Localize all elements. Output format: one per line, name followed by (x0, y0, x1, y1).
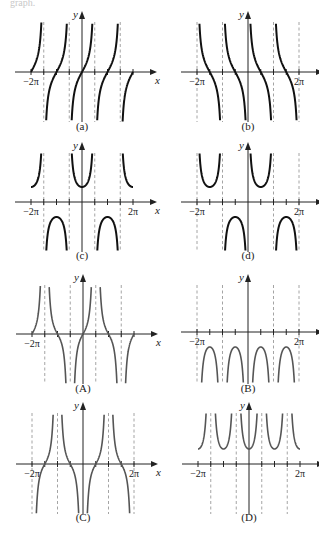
graph-caption: (B) (241, 382, 256, 395)
y-axis-arrow-icon (80, 274, 86, 282)
y-axis-arrow-icon (245, 142, 251, 150)
curve-segment (49, 287, 66, 383)
curve-segment (46, 217, 66, 251)
x-tick-label: −2π (24, 468, 40, 479)
graph-caption: (d) (242, 249, 255, 262)
curve-segment (123, 72, 133, 121)
y-axis-label: y (238, 8, 244, 20)
x-tick-label: −2π (190, 468, 206, 479)
graph-panel-b: yx−2π2π(b) (181, 8, 319, 133)
x-tick-label: −2π (189, 76, 205, 87)
y-axis-label: y (238, 271, 244, 283)
y-axis-label: y (72, 139, 78, 151)
curve-segment (292, 413, 300, 449)
x-tick-label: 2π (294, 76, 304, 87)
curve-segment (100, 287, 117, 383)
curve-segment (126, 334, 134, 383)
y-axis-label: y (238, 139, 244, 151)
y-axis-arrow-icon (79, 11, 85, 19)
curve-segment (278, 347, 294, 383)
x-axis-arrow-icon (316, 329, 319, 335)
y-axis-label: y (239, 399, 245, 411)
curve-segment (97, 217, 117, 251)
y-axis-arrow-icon (245, 274, 251, 282)
graph-caption: (a) (76, 120, 89, 133)
curve-segment (225, 217, 245, 251)
graph-panel-D: yx−2π2π(D) (182, 399, 319, 524)
curve-segment (32, 286, 40, 334)
x-axis-label: x (155, 336, 161, 348)
graph-caption: (b) (242, 120, 255, 133)
curve-segment (31, 153, 41, 187)
x-tick-label: 2π (294, 336, 304, 347)
graph-caption: (D) (241, 511, 257, 524)
curve-segment (123, 153, 133, 187)
x-tick-label: −2π (23, 206, 39, 217)
graph-panel-c: yx−2π2π(c) (15, 139, 160, 262)
graph-panel-a: yx−2π(a) (15, 8, 160, 133)
x-tick-label: 2π (294, 206, 304, 217)
x-axis-label: x (155, 466, 161, 478)
x-tick-label: −2π (189, 336, 205, 347)
graph-panel-C: yx−2π2π(C) (16, 399, 161, 524)
x-axis-label: x (154, 204, 160, 216)
y-axis-arrow-icon (246, 402, 252, 410)
y-axis-label: y (72, 8, 78, 20)
curve-segment (227, 347, 243, 383)
x-tick-label: −2π (189, 206, 205, 217)
x-axis-label: x (154, 74, 160, 86)
curve-segment (266, 413, 282, 449)
graph-caption: (A) (75, 382, 91, 395)
x-tick-label: 2π (129, 468, 139, 479)
y-axis-arrow-icon (80, 402, 86, 410)
y-axis-arrow-icon (245, 11, 251, 19)
y-axis-arrow-icon (79, 142, 85, 150)
graphs-figure: graph. yx−2π(a)yx−2π2π(b)yx−2π2π(c)yx−2π… (0, 0, 319, 549)
curve-segment (200, 153, 220, 187)
curve-segment (31, 23, 41, 72)
x-tick-label: −2π (23, 76, 39, 87)
curve-segment (276, 217, 296, 251)
curve-segment (202, 347, 218, 383)
curve-segment (198, 413, 206, 449)
curve-segment (251, 153, 271, 187)
curve-segment (215, 413, 231, 449)
x-tick-label: 2π (295, 468, 305, 479)
x-axis-arrow-icon (317, 461, 319, 467)
x-tick-label: −2π (24, 338, 40, 349)
graph-panel-B: yx−2π2π(B) (181, 271, 319, 395)
x-tick-label: 2π (128, 206, 138, 217)
header-fragment: graph. (10, 0, 35, 8)
graph-panel-d: yx−2π2π(d) (181, 139, 319, 262)
graph-caption: (c) (76, 249, 89, 262)
curve-segment (253, 347, 269, 383)
y-axis-label: y (73, 271, 79, 283)
y-axis-label: y (73, 399, 79, 411)
graph-panel-A: yx−2π(A) (16, 271, 161, 395)
graph-caption: (C) (76, 511, 91, 524)
x-axis-arrow-icon (316, 69, 319, 75)
x-axis-arrow-icon (316, 199, 319, 205)
